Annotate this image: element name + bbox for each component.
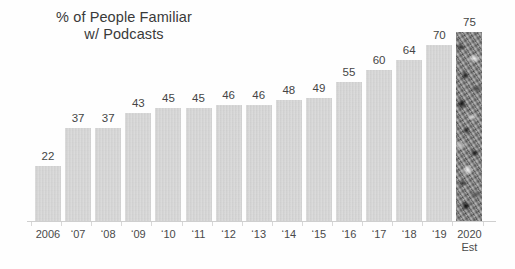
axis-tick bbox=[61, 222, 62, 226]
axis-tick bbox=[242, 222, 243, 226]
bar-value-label: 37 bbox=[88, 112, 128, 124]
axis-tick bbox=[151, 222, 152, 226]
axis-tick bbox=[182, 222, 183, 226]
axis-tick bbox=[91, 222, 92, 226]
axis-tick bbox=[422, 222, 423, 226]
axis-tick bbox=[31, 222, 32, 226]
axis-tick bbox=[332, 222, 333, 226]
axis-tick bbox=[452, 222, 453, 226]
bar-value-label: 70 bbox=[419, 29, 459, 41]
x-axis-label: 2020Est bbox=[447, 228, 491, 254]
x-axis-label-year: ‘10 bbox=[161, 228, 176, 240]
x-axis-baseline bbox=[27, 221, 496, 222]
bar-08 bbox=[95, 128, 121, 221]
x-axis-label-year: ‘11 bbox=[192, 228, 206, 240]
bar-value-label: 64 bbox=[389, 44, 429, 56]
bar-14 bbox=[276, 100, 302, 221]
x-axis-label-year: ‘09 bbox=[131, 228, 146, 240]
x-axis-label-year: ‘17 bbox=[372, 228, 387, 240]
x-axis-label-year: ‘12 bbox=[221, 228, 236, 240]
axis-tick bbox=[392, 222, 393, 226]
bar-13 bbox=[246, 105, 272, 221]
x-axis-label-year: ‘13 bbox=[251, 228, 266, 240]
bar-12 bbox=[216, 105, 242, 221]
bar-10 bbox=[155, 108, 181, 221]
bar-value-label: 22 bbox=[28, 150, 68, 162]
podcast-familiarity-chart: % of People Familiar w/ Podcasts 2237374… bbox=[0, 0, 515, 269]
bar-2006 bbox=[35, 166, 61, 221]
bar-value-label: 49 bbox=[299, 82, 339, 94]
bar-18 bbox=[396, 60, 422, 221]
x-axis-label-year: ‘16 bbox=[342, 228, 357, 240]
axis-tick bbox=[362, 222, 363, 226]
bar-2020 bbox=[456, 32, 482, 221]
x-axis-label-year: ‘08 bbox=[101, 228, 116, 240]
axis-tick bbox=[302, 222, 303, 226]
axis-tick bbox=[483, 222, 484, 226]
x-axis-label-year: ‘07 bbox=[71, 228, 86, 240]
x-axis-label-year: ‘19 bbox=[432, 228, 447, 240]
bar-17 bbox=[366, 70, 392, 221]
x-axis-label-sublabel: Est bbox=[447, 241, 491, 254]
x-axis-label-year: 2020 bbox=[457, 228, 481, 240]
axis-tick bbox=[212, 222, 213, 226]
bar-19 bbox=[426, 45, 452, 221]
bar-15 bbox=[306, 98, 332, 221]
axis-tick bbox=[121, 222, 122, 226]
bar-09 bbox=[125, 113, 151, 221]
bar-16 bbox=[336, 82, 362, 221]
x-axis-label-year: ‘14 bbox=[281, 228, 296, 240]
bar-11 bbox=[186, 108, 212, 221]
x-axis-label-year: ‘15 bbox=[312, 228, 327, 240]
bar-07 bbox=[65, 128, 91, 221]
bar-value-label: 75 bbox=[449, 16, 489, 28]
axis-tick bbox=[272, 222, 273, 226]
bar-value-label: 55 bbox=[329, 66, 369, 78]
x-axis-label-year: ‘18 bbox=[402, 228, 417, 240]
